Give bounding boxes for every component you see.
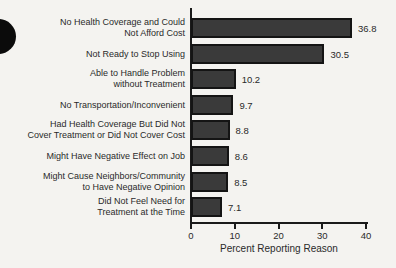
value-label: 8.8 [236, 125, 249, 136]
value-label: 10.2 [242, 74, 261, 85]
bar [191, 69, 236, 89]
bar [191, 18, 352, 38]
x-axis-tick [321, 224, 323, 229]
bar [191, 44, 324, 64]
x-axis-tick-label: 10 [229, 230, 240, 241]
scanned-chart-page: Percent Reporting Reason No Health Cover… [0, 0, 396, 268]
bar [191, 95, 233, 115]
bar [191, 120, 230, 140]
value-label: 9.7 [239, 99, 252, 110]
value-label: 36.8 [358, 23, 377, 34]
category-label: Did Not Feel Need for Treatment at the T… [13, 196, 185, 218]
x-axis-tick-label: 30 [317, 230, 328, 241]
value-label: 7.1 [228, 202, 241, 213]
category-label: Able to Handle Problem without Treatment [13, 68, 185, 90]
x-axis-tick-label: 20 [273, 230, 284, 241]
category-label: No Transportation/Inconvenient [13, 99, 185, 110]
x-axis-tick [190, 224, 192, 229]
bar [191, 172, 228, 192]
bar [191, 197, 222, 217]
value-label: 30.5 [330, 48, 349, 59]
x-axis-tick [234, 224, 236, 229]
x-axis-title: Percent Reporting Reason [191, 243, 367, 254]
bar [191, 146, 229, 166]
category-label: Not Ready to Stop Using [13, 48, 185, 59]
x-axis-tick-label: 40 [361, 230, 372, 241]
x-axis-tick-label: 0 [188, 230, 193, 241]
value-label: 8.5 [234, 176, 247, 187]
category-label: No Health Coverage and Could Not Afford … [13, 17, 185, 39]
category-label: Might Have Negative Effect on Job [13, 151, 185, 162]
x-axis-tick [365, 224, 367, 229]
x-axis-tick [278, 224, 280, 229]
category-label: Had Health Coverage But Did Not Cover Tr… [13, 119, 185, 141]
value-label: 8.6 [235, 151, 248, 162]
category-label: Might Cause Neighbors/Community to Have … [13, 171, 185, 193]
y-axis-line [190, 8, 192, 224]
